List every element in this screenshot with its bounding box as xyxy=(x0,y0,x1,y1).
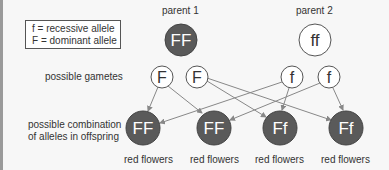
offspring-2: FF xyxy=(197,111,231,145)
svg-text:FF: FF xyxy=(204,119,225,138)
parent-1-circle: FF xyxy=(165,24,197,56)
svg-text:Ff: Ff xyxy=(272,119,287,138)
parent-1-genotype: FF xyxy=(171,31,192,50)
svg-text:f: f xyxy=(327,69,332,86)
parent-2-circle: ff xyxy=(299,24,331,56)
cross-arrows xyxy=(148,78,343,123)
offspring-1: FF xyxy=(126,111,160,145)
gamete-2: F xyxy=(186,66,208,88)
offspring-3: Ff xyxy=(263,111,297,145)
arrow-g2-o4 xyxy=(207,78,331,120)
gamete-1: F xyxy=(151,66,173,88)
arrow-g1-o1 xyxy=(148,87,158,111)
gamete-3: f xyxy=(281,66,303,88)
gamete-4: f xyxy=(318,66,340,88)
svg-text:f: f xyxy=(290,69,295,86)
svg-text:F: F xyxy=(157,69,167,86)
arrow-g1-o2 xyxy=(168,86,202,113)
arrow-g4-o4 xyxy=(333,88,343,110)
arrow-g3-o3 xyxy=(282,88,289,110)
parent-2-genotype: ff xyxy=(310,31,319,50)
svg-text:FF: FF xyxy=(133,119,154,138)
cross-diagram: FF ff F F f f FF FF Ff Ff xyxy=(0,0,389,170)
offspring-4: Ff xyxy=(329,111,363,145)
svg-text:Ff: Ff xyxy=(338,119,353,138)
svg-text:F: F xyxy=(192,69,202,86)
